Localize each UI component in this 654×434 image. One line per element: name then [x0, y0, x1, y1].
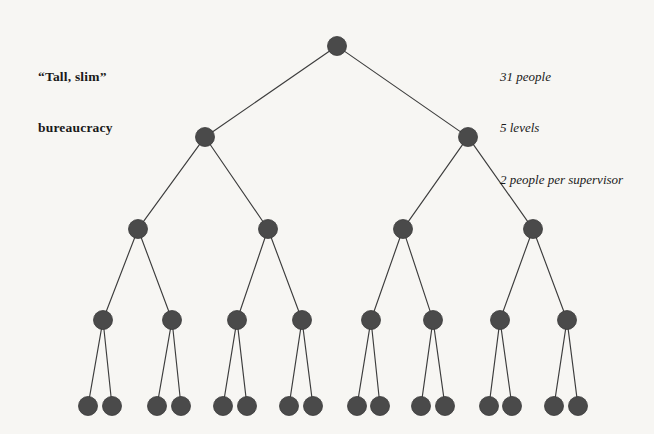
tree-edge: [240, 237, 266, 312]
tree-edge: [434, 328, 444, 397]
tree-edge: [290, 328, 300, 397]
tree-node-level-3: [394, 220, 413, 239]
tree-edge: [490, 328, 499, 397]
tree-edge: [408, 144, 463, 222]
tree-edge: [501, 328, 511, 397]
tree-node-level-5: [545, 397, 564, 416]
tree-edge: [238, 328, 246, 397]
tree-node-level-5: [348, 397, 367, 416]
tree-edge: [141, 237, 169, 312]
tree-node-level-5: [304, 397, 323, 416]
caption-line-2: bureaucracy: [38, 119, 113, 136]
tree-edge: [555, 328, 565, 397]
tree-edge: [406, 237, 431, 312]
tree-edge: [173, 328, 180, 397]
tree-node-level-4: [491, 311, 510, 330]
caption-tall-slim-bureaucracy: “Tall, slim” bureaucracy: [38, 33, 113, 171]
tree-edge: [106, 237, 135, 312]
tree-node-level-5: [172, 397, 191, 416]
tree-node-level-3: [129, 220, 148, 239]
tree-edge: [89, 328, 101, 397]
org-chart-diagram: “Tall, slim” bureaucracy 31 people 5 lev…: [0, 0, 654, 434]
tree-edge: [568, 328, 577, 397]
tree-node-level-5: [480, 397, 499, 416]
stats-annotation: 31 people 5 levels 2 people per supervis…: [500, 33, 623, 223]
tree-node-level-5: [238, 397, 257, 416]
tree-edge: [374, 237, 400, 312]
tree-node-level-4: [362, 311, 381, 330]
tree-edge: [143, 144, 200, 222]
tree-edge: [224, 328, 235, 397]
tree-node-level-5: [412, 397, 431, 416]
tree-node-level-5: [148, 397, 167, 416]
caption-line-1: “Tall, slim”: [38, 68, 113, 85]
tree-node-level-4: [558, 311, 577, 330]
tree-edge: [210, 144, 263, 222]
tree-node-level-3: [259, 220, 278, 239]
tree-node-level-5: [103, 397, 122, 416]
tree-edge: [212, 51, 330, 132]
tree-node-level-4: [293, 311, 312, 330]
tree-edge: [344, 51, 461, 132]
tree-node-level-4: [424, 311, 443, 330]
tree-node-level-5: [79, 397, 98, 416]
stats-line-span: 2 people per supervisor: [500, 171, 623, 188]
tree-node-level-5: [280, 397, 299, 416]
stats-line-levels: 5 levels: [500, 119, 623, 136]
tree-edge: [104, 328, 111, 397]
tree-node-level-2: [196, 128, 215, 147]
tree-edge: [271, 237, 299, 312]
tree-edge: [372, 328, 379, 397]
tree-edge: [422, 328, 432, 397]
tree-node-level-4: [94, 311, 113, 330]
tree-edge: [503, 237, 530, 312]
tree-node-level-5: [436, 397, 455, 416]
tree-node-level-2: [459, 128, 478, 147]
tree-node-level-4: [228, 311, 247, 330]
tree-node-level-5: [569, 397, 588, 416]
tree-node-level-5: [214, 397, 233, 416]
tree-node-level-5: [503, 397, 522, 416]
stats-line-people: 31 people: [500, 68, 623, 85]
tree-edge: [158, 328, 170, 397]
tree-node-level-5: [371, 397, 390, 416]
tree-node-level-1: [328, 37, 347, 56]
tree-edge: [303, 328, 312, 397]
tree-edge: [358, 328, 369, 397]
tree-node-level-4: [163, 311, 182, 330]
tree-edge: [536, 237, 564, 312]
